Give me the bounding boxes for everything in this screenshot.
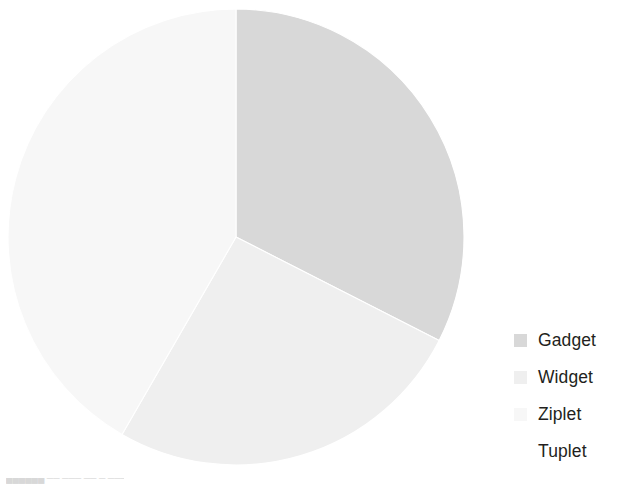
- legend-label-gadget: Gadget: [538, 332, 596, 350]
- legend-swatch-gadget: [514, 334, 527, 347]
- legend-item-ziplet[interactable]: Ziplet: [514, 396, 628, 433]
- legend-item-tuplet[interactable]: Tuplet: [514, 433, 628, 470]
- legend-swatch-ziplet: [514, 408, 527, 421]
- legend-item-gadget[interactable]: Gadget: [514, 322, 628, 359]
- clipped-caption-text: ██████ ── ─── ── ─ ────: [6, 478, 124, 483]
- legend-label-widget: Widget: [538, 369, 593, 387]
- legend-item-widget[interactable]: Widget: [514, 359, 628, 396]
- pie-svg: [0, 0, 470, 487]
- legend-label-tuplet: Tuplet: [538, 443, 587, 461]
- pie-slice-group: [8, 9, 464, 465]
- pie-plot-area: [0, 0, 470, 487]
- pie-chart-figure: Gadget Widget Ziplet Tuplet ██████ ── ──…: [0, 0, 628, 487]
- legend-label-ziplet: Ziplet: [538, 406, 581, 424]
- legend-swatch-widget: [514, 371, 527, 384]
- chart-legend: Gadget Widget Ziplet Tuplet: [514, 322, 628, 470]
- clipped-caption-artifact: ██████ ── ─── ── ─ ────: [6, 478, 124, 487]
- legend-swatch-tuplet: [514, 445, 527, 458]
